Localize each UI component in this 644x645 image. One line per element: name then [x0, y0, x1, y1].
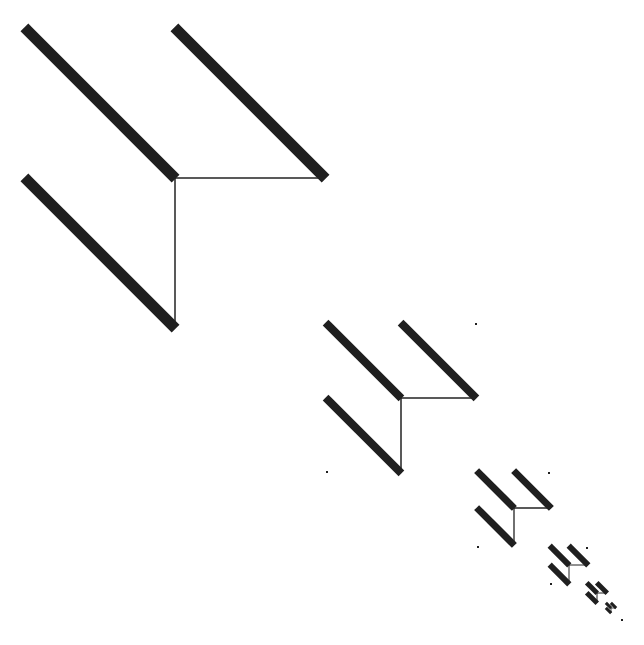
- dot: [550, 583, 552, 585]
- dot: [586, 547, 588, 549]
- diagonal-band-top-left: [607, 604, 610, 607]
- diagonal-band-top-right: [612, 604, 615, 607]
- diagonal-band-bottom-left: [28, 181, 171, 324]
- diagonal-band-bottom-left: [479, 510, 512, 543]
- block-level-3: [479, 473, 551, 545]
- diagonal-band-bottom-left: [607, 609, 610, 612]
- dot: [621, 619, 623, 621]
- fractal-sparsity-diagram: [0, 0, 644, 645]
- diagonal-band-top-right: [571, 548, 586, 563]
- block-level-5: [589, 585, 608, 604]
- diagonal-band-top-right: [516, 473, 549, 506]
- dot: [477, 546, 479, 548]
- dot: [475, 323, 477, 325]
- dot: [548, 472, 550, 474]
- diagonal-band-top-left: [28, 31, 171, 174]
- diagonal-band-bottom-left: [589, 595, 596, 602]
- block-level-4: [552, 548, 588, 584]
- diagonal-band-top-left: [479, 473, 512, 506]
- block-level-2: [328, 325, 476, 473]
- diagonal-band-top-left: [589, 585, 596, 592]
- recursive-blocks: [28, 31, 616, 613]
- block-level-1: [28, 31, 325, 328]
- diagonal-band-top-left: [552, 548, 567, 563]
- dot: [326, 471, 328, 473]
- diagonal-band-bottom-left: [552, 567, 567, 582]
- diagonal-band-top-right: [178, 31, 321, 174]
- diagonal-band-top-left: [328, 325, 398, 395]
- diagonal-band-top-right: [599, 585, 606, 592]
- diagonal-band-top-right: [403, 325, 473, 395]
- block-level-6: [607, 604, 616, 613]
- diagonal-band-bottom-left: [328, 400, 398, 470]
